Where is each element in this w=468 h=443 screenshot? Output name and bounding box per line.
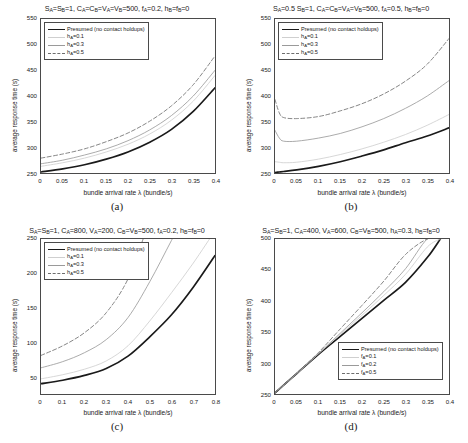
x-tick-label: 0.35	[422, 177, 434, 184]
legend-label: hA=0.5	[67, 49, 84, 57]
panel-a-caption: (a)	[0, 200, 234, 212]
x-tick-label: 0.3	[168, 177, 176, 184]
y-tick-label: 300	[235, 145, 271, 151]
legend-label: hA=0.5	[67, 269, 84, 277]
x-tick-label: 0.3	[402, 177, 410, 184]
legend-entry: hA=0.5	[47, 49, 145, 57]
legend-entry: hA=0.1	[47, 33, 145, 41]
legend-line-swatch	[47, 254, 65, 261]
y-tick-label: 350	[1, 119, 37, 125]
legend-line-swatch	[47, 42, 65, 49]
series-curve	[41, 56, 215, 158]
panel-d-caption: (d)	[234, 420, 468, 432]
x-tick-label: 0.25	[378, 398, 390, 405]
panel-a-x-axis-label: bundle arrival rate λ (bundle/s)	[40, 189, 216, 196]
legend-entry: Presumed (no contact holdups)	[47, 245, 145, 253]
x-tick-label: 0.1	[80, 177, 88, 184]
panel-a-y-ticks: 250300350400450500550	[0, 18, 37, 174]
legend-entry: hA=0.3	[281, 41, 379, 49]
y-tick-label: 450	[235, 266, 271, 272]
x-tick-label: 0.5	[146, 398, 154, 405]
panel-b: SA=0.5 SB=1, CA=CB=VA=VB=500, fA=0.5, hB…	[234, 0, 468, 221]
panel-b-x-axis-label: bundle arrival rate λ (bundle/s)	[274, 189, 450, 196]
y-tick-label: 400	[1, 93, 37, 99]
x-tick-label: 0.35	[188, 177, 200, 184]
x-tick-label: 0.35	[422, 398, 434, 405]
x-tick-label: 0.3	[402, 398, 410, 405]
x-tick-label: 0.6	[168, 398, 176, 405]
y-tick-label: 500	[235, 235, 271, 241]
panel-c-legend: Presumed (no contact holdups)hA=0.1hA=0.…	[44, 242, 149, 280]
legend-line-swatch	[341, 354, 359, 361]
legend-line-swatch	[281, 34, 299, 41]
x-tick-label: 0.1	[58, 398, 66, 405]
legend-line-swatch	[341, 370, 359, 377]
y-tick-label: 50	[1, 375, 37, 381]
panel-d-legend: Presumed (no contact holdups)fA=0.1fA=0.…	[338, 342, 443, 380]
legend-line-swatch	[281, 42, 299, 49]
y-tick-label: 500	[1, 41, 37, 47]
x-tick-label: 0	[272, 398, 275, 405]
x-tick-label: 0.05	[290, 398, 302, 405]
legend-entry: Presumed (no contact holdups)	[281, 25, 379, 33]
x-tick-label: 0.7	[190, 398, 198, 405]
legend-entry: fA=0.5	[341, 369, 439, 377]
legend-label: hA=0.5	[301, 49, 318, 57]
legend-line-swatch	[341, 362, 359, 369]
y-tick-label: 250	[1, 235, 37, 241]
panel-c-caption: (c)	[0, 420, 234, 432]
legend-label: hA=0.1	[301, 33, 318, 41]
x-tick-label: 0.4	[446, 177, 454, 184]
legend-label: hA=0.1	[67, 33, 84, 41]
x-tick-label: 0.2	[358, 177, 366, 184]
y-tick-label: 450	[1, 67, 37, 73]
y-tick-label: 450	[235, 67, 271, 73]
legend-entry: fA=0.2	[341, 361, 439, 369]
legend-label: hA=0.3	[67, 41, 84, 49]
x-tick-label: 0.15	[334, 398, 346, 405]
panel-c-x-axis-label: bundle arrival rate λ (bundle/s)	[40, 409, 216, 416]
figure-four-panel-line-charts: SA=SB=1, CA=CB=VA=VB=500, fA=0.2, hB=fB=…	[0, 0, 468, 443]
y-tick-label: 550	[235, 15, 271, 21]
panel-c: SA=SB=1, CA=800, VA=200, CB=VB=500, fA=0…	[0, 222, 234, 443]
panel-b-legend: Presumed (no contact holdups)hA=0.1hA=0.…	[278, 22, 383, 60]
legend-entry: hA=0.5	[281, 49, 379, 57]
legend-label: Presumed (no contact holdups)	[67, 246, 145, 253]
legend-label: hA=0.3	[301, 41, 318, 49]
y-tick-label: 150	[1, 305, 37, 311]
legend-label: hA=0.1	[67, 253, 84, 261]
panel-d-x-axis-label: bundle arrival rate λ (bundle/s)	[274, 409, 450, 416]
series-curve	[275, 128, 449, 173]
y-tick-label: 100	[1, 340, 37, 346]
legend-line-swatch	[47, 270, 65, 277]
panel-c-x-ticks: 00.10.20.30.40.50.60.70.8	[40, 398, 216, 408]
y-tick-label: 300	[235, 361, 271, 367]
y-tick-label: 400	[235, 93, 271, 99]
legend-entry: fA=0.1	[341, 353, 439, 361]
y-tick-label: 550	[1, 15, 37, 21]
y-tick-label: 250	[235, 171, 271, 177]
y-tick-label: 350	[235, 329, 271, 335]
y-tick-label: 500	[235, 41, 271, 47]
legend-label: fA=0.2	[361, 361, 376, 369]
legend-entry: Presumed (no contact holdups)	[341, 345, 439, 353]
panel-d-x-ticks: 00.050.10.150.20.250.30.350.4	[274, 398, 450, 408]
x-tick-label: 0	[38, 177, 41, 184]
panel-a: SA=SB=1, CA=CB=VA=VB=500, fA=0.2, hB=fB=…	[0, 0, 234, 221]
legend-entry: hA=0.3	[47, 261, 145, 269]
x-tick-label: 0.2	[124, 177, 132, 184]
series-curve	[275, 81, 449, 142]
x-tick-label: 0.15	[100, 177, 112, 184]
legend-entry: hA=0.1	[281, 33, 379, 41]
legend-entry: hA=0.5	[47, 269, 145, 277]
legend-label: Presumed (no contact holdups)	[361, 346, 439, 353]
legend-label: fA=0.5	[361, 369, 376, 377]
legend-label: Presumed (no contact holdups)	[67, 26, 145, 33]
legend-entry: hA=0.1	[47, 253, 145, 261]
x-tick-label: 0.4	[124, 398, 132, 405]
x-tick-label: 0.25	[378, 177, 390, 184]
x-tick-label: 0.3	[102, 398, 110, 405]
series-curve	[41, 70, 215, 163]
legend-label: Presumed (no contact holdups)	[301, 26, 379, 33]
y-tick-label: 350	[235, 119, 271, 125]
